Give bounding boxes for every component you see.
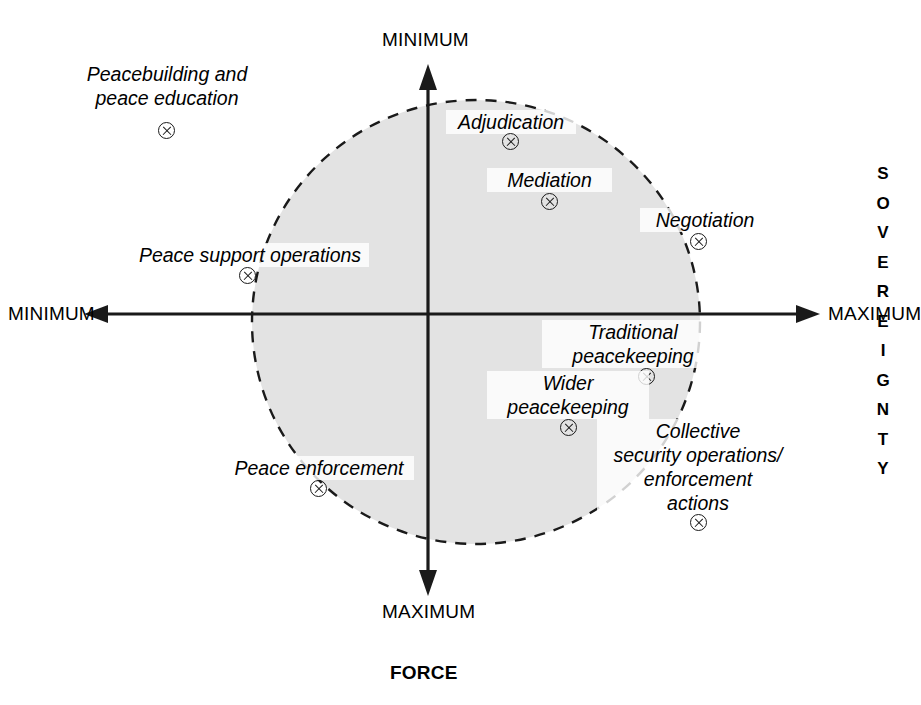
sovereignty-letter: T	[869, 425, 897, 455]
sovereignty-letter: V	[869, 218, 897, 248]
item-marker-wider-peacekeeping	[560, 419, 577, 436]
sovereignty-letter: S	[869, 159, 897, 189]
item-label-mediation: Mediation	[487, 168, 612, 192]
item-label-adjudication: Adjudication	[446, 110, 576, 134]
diagram-canvas: MINIMUM MAXIMUM MINIMUM MAXIMUM FORCE S …	[0, 0, 921, 705]
item-label-collective-security: Collective security operations/ enforcem…	[597, 419, 799, 515]
axis-title-sovereignty: S O V E R E I G N T Y	[869, 159, 897, 484]
item-label-peace-enforcement: Peace enforcement	[224, 456, 414, 480]
item-marker-adjudication	[502, 133, 519, 150]
axis-title-force: FORCE	[390, 662, 458, 684]
item-label-negotiation: Negotiation	[640, 208, 770, 232]
item-marker-mediation	[541, 193, 558, 210]
sovereignty-letter: E	[869, 248, 897, 278]
axis-label-horizontal-left: MINIMUM	[8, 303, 95, 325]
item-label-wider-peacekeeping: Wider peacekeeping	[487, 371, 649, 419]
item-label-peace-support-operations: Peace support operations	[131, 243, 369, 267]
sovereignty-letter: O	[869, 189, 897, 219]
item-marker-negotiation	[690, 233, 707, 250]
item-marker-peacebuilding	[158, 122, 175, 139]
item-label-peacebuilding: Peacebuilding and peace education	[66, 62, 268, 110]
axis-label-vertical-top: MINIMUM	[382, 29, 469, 51]
sovereignty-letter: R	[869, 277, 897, 307]
axis-label-vertical-bottom: MAXIMUM	[382, 601, 475, 623]
item-label-traditional-peacekeeping: Traditional peacekeeping	[542, 320, 724, 368]
item-marker-collective-security	[690, 514, 707, 531]
sovereignty-letter: G	[869, 366, 897, 396]
sovereignty-letter: N	[869, 395, 897, 425]
sovereignty-letter: I	[869, 336, 897, 366]
sovereignty-letter: Y	[869, 454, 897, 484]
item-marker-peace-support-operations	[239, 267, 256, 284]
item-marker-peace-enforcement	[310, 480, 327, 497]
sovereignty-letter: E	[869, 307, 897, 337]
